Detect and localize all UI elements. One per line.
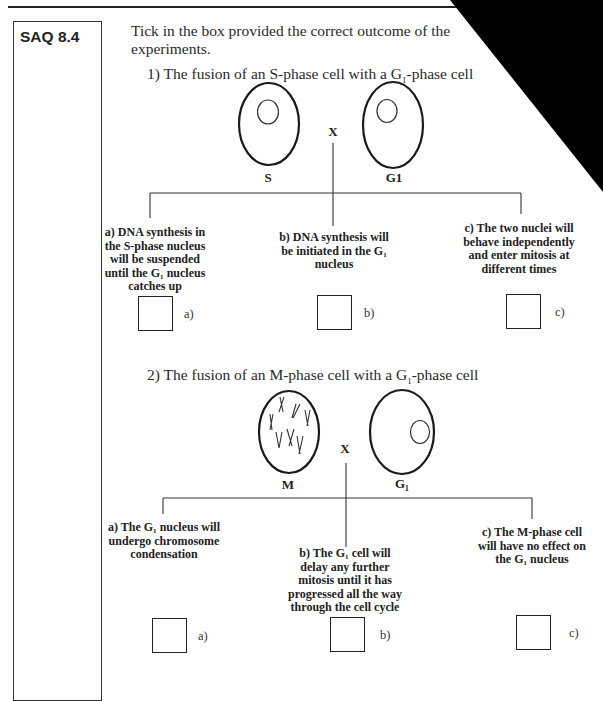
page-corner-shadow <box>0 0 603 676</box>
